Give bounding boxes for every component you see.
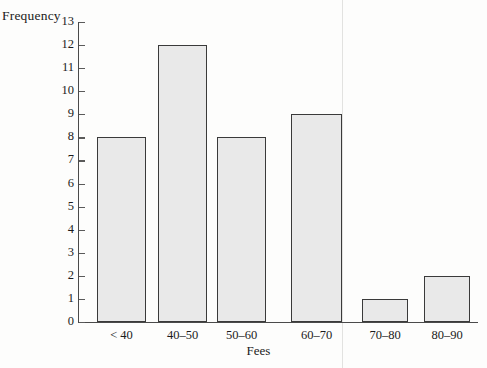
y-axis-tick-label: 8 [52, 129, 74, 144]
x-axis-line [78, 322, 478, 323]
y-axis-tick-label: 9 [52, 106, 74, 121]
y-axis-tick-label: 1 [52, 291, 74, 306]
y-axis-tick [79, 45, 85, 46]
histogram-figure: Frequency 012345678910111213 < 4040–5050… [0, 0, 487, 368]
y-axis-tick [79, 114, 85, 115]
y-axis-tick-label: 0 [52, 314, 74, 329]
y-axis-tick [79, 276, 85, 277]
bar [291, 114, 342, 322]
x-axis-tick-label: 80–90 [407, 328, 487, 343]
y-axis-tick [79, 253, 85, 254]
y-axis-line [78, 22, 79, 323]
bar [424, 276, 470, 322]
y-axis-tick-label: 10 [52, 83, 74, 98]
y-axis-tick [79, 160, 85, 161]
y-axis-tick [79, 22, 85, 23]
bar [97, 137, 146, 322]
y-axis-tick [79, 299, 85, 300]
y-axis-tick-label: 2 [52, 268, 74, 283]
y-axis-tick-label: 3 [52, 245, 74, 260]
y-axis-tick [79, 91, 85, 92]
y-axis-tick [79, 184, 85, 185]
y-axis-tick-label: 11 [52, 60, 74, 75]
plot-area: 012345678910111213 < 4040–5050–6060–7070… [0, 0, 487, 368]
y-axis-tick-label: 7 [52, 152, 74, 167]
y-axis-tick-label: 4 [52, 222, 74, 237]
bar [362, 299, 408, 322]
y-axis-tick [79, 230, 85, 231]
x-axis-tick-label: 50–60 [202, 328, 282, 343]
y-axis-tick-label: 13 [52, 14, 74, 29]
y-axis-tick-label: 5 [52, 199, 74, 214]
x-axis-title-text: Fees [247, 343, 271, 358]
bar [217, 137, 266, 322]
y-axis-tick [79, 207, 85, 208]
y-axis-tick-label: 12 [52, 37, 74, 52]
y-axis-tick [79, 322, 85, 323]
bar [158, 45, 207, 322]
y-axis-tick [79, 137, 85, 138]
y-axis-tick-label: 6 [52, 176, 74, 191]
x-axis-title: Fees [0, 343, 487, 359]
y-axis-tick [79, 68, 85, 69]
